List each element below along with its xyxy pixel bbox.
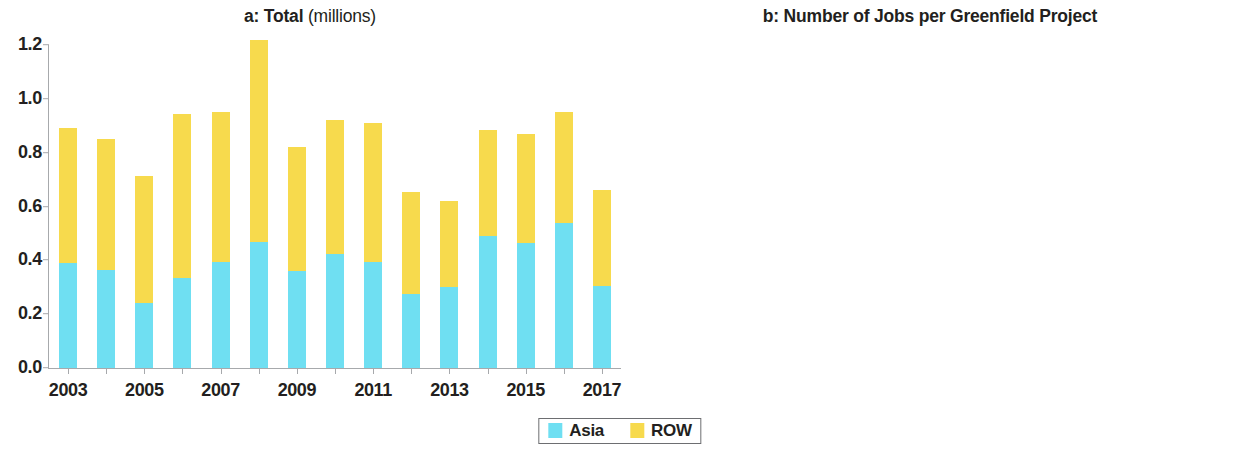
- stacked-bar: [517, 45, 535, 368]
- y-axis-tick-label: 1.2: [18, 34, 42, 55]
- y-axis-tick-label: 0.4: [18, 249, 42, 270]
- y-axis-tick-mark: [43, 367, 49, 368]
- stacked-bar: [97, 45, 115, 368]
- y-axis-tick-label: 0.8: [18, 142, 42, 163]
- bar-segment-asia: [59, 263, 77, 368]
- bar-segment-asia: [173, 278, 191, 368]
- y-axis-tick-label: 1.0: [18, 88, 42, 109]
- legend-label-row: ROW: [651, 422, 692, 439]
- stacked-bar: [555, 45, 573, 368]
- panel-a-title-light: (millions): [308, 6, 376, 26]
- bar-segment-row: [135, 176, 153, 304]
- x-axis-tick-mark: [68, 368, 69, 374]
- bar-segment-asia: [479, 236, 497, 368]
- x-axis-tick-mark: [488, 368, 489, 374]
- bar-segment-asia: [517, 243, 535, 368]
- stacked-bar: [402, 45, 420, 368]
- bar-segment-asia: [212, 262, 230, 368]
- stacked-bar: [135, 45, 153, 368]
- bar-segment-asia: [593, 286, 611, 368]
- bar-segment-row: [402, 192, 420, 294]
- x-axis-tick-mark: [602, 368, 603, 374]
- y-axis-tick-label: 0.0: [18, 357, 42, 378]
- bar-segment-row: [440, 201, 458, 287]
- stacked-bar: [326, 45, 344, 368]
- bar-segment-row: [59, 128, 77, 263]
- x-axis-tick-label: 2011: [354, 380, 391, 401]
- y-axis-tick-label: 0.6: [18, 196, 42, 217]
- y-axis-tick-mark: [43, 206, 49, 207]
- bar-segment-asia: [135, 303, 153, 368]
- bar-segment-row: [593, 190, 611, 286]
- panel-b-title: b: Number of Jobs per Greenfield Project: [620, 6, 1240, 27]
- stacked-bar: [440, 45, 458, 368]
- legend-item-asia: Asia: [548, 422, 604, 439]
- y-axis-tick-mark: [43, 44, 49, 45]
- x-axis-tick-label: 2005: [125, 380, 163, 401]
- x-axis-tick-mark: [144, 368, 145, 374]
- chart-legend: AsiaROW: [538, 418, 701, 444]
- stacked-bar: [212, 45, 230, 368]
- legend-swatch-asia: [548, 423, 562, 438]
- chart-panel-b: b: Number of Jobs per Greenfield Project…: [620, 0, 1240, 410]
- x-axis-tick-mark: [259, 368, 260, 374]
- bar-segment-row: [364, 123, 382, 262]
- x-axis-tick-label: 2009: [278, 380, 316, 401]
- stacked-bar: [288, 45, 306, 368]
- legend-item-row: ROW: [630, 422, 692, 439]
- panel-b-title-bold: b: Number of Jobs per Greenfield Project: [763, 6, 1097, 26]
- bar-segment-row: [288, 147, 306, 271]
- bar-segment-row: [517, 134, 535, 243]
- figure: a: Total (millions) 0.00.20.40.60.81.01.…: [0, 0, 1240, 449]
- bar-segment-row: [555, 112, 573, 222]
- bar-segment-asia: [250, 242, 268, 369]
- bar-segment-row: [479, 130, 497, 236]
- x-axis-tick-label: 2015: [506, 380, 544, 401]
- stacked-bar: [364, 45, 382, 368]
- bar-segment-asia: [440, 287, 458, 368]
- x-axis-tick-mark: [526, 368, 527, 374]
- stacked-bar: [173, 45, 191, 368]
- x-axis-tick-mark: [297, 368, 298, 374]
- panel-a-title-bold: a: Total: [244, 6, 303, 26]
- x-axis-tick-label: 2017: [583, 380, 621, 401]
- y-axis-tick-mark: [43, 152, 49, 153]
- legend-label-asia: Asia: [569, 422, 604, 439]
- stacked-bar: [59, 45, 77, 368]
- stacked-bar: [250, 45, 268, 368]
- bar-segment-row: [173, 114, 191, 278]
- bar-segment-row: [326, 120, 344, 253]
- bar-segment-asia: [97, 270, 115, 368]
- bar-segment-asia: [364, 262, 382, 368]
- panel-a-plot-area: 0.00.20.40.60.81.01.22003200520072009201…: [48, 45, 621, 369]
- x-axis-tick-mark: [373, 368, 374, 374]
- stacked-bar: [593, 45, 611, 368]
- panel-a-title: a: Total (millions): [0, 6, 620, 27]
- bar-segment-asia: [402, 294, 420, 368]
- x-axis-tick-mark: [221, 368, 222, 374]
- x-axis-tick-mark: [411, 368, 412, 374]
- bar-segment-row: [250, 40, 268, 242]
- bar-segment-row: [212, 112, 230, 261]
- bar-segment-row: [97, 139, 115, 270]
- bar-segment-asia: [288, 271, 306, 368]
- bar-segment-asia: [326, 254, 344, 368]
- x-axis-tick-mark: [449, 368, 450, 374]
- x-axis-tick-mark: [106, 368, 107, 374]
- y-axis-tick-mark: [43, 98, 49, 99]
- y-axis-tick-label: 0.2: [18, 303, 42, 324]
- y-axis-tick-mark: [43, 260, 49, 261]
- x-axis-tick-label: 2013: [430, 380, 468, 401]
- legend-swatch-row: [630, 423, 644, 438]
- stacked-bar: [479, 45, 497, 368]
- x-axis-tick-mark: [335, 368, 336, 374]
- x-axis-tick-mark: [564, 368, 565, 374]
- x-axis-tick-label: 2003: [49, 380, 87, 401]
- x-axis-tick-mark: [182, 368, 183, 374]
- bar-segment-asia: [555, 223, 573, 368]
- x-axis-tick-label: 2007: [201, 380, 239, 401]
- chart-panel-a: a: Total (millions) 0.00.20.40.60.81.01.…: [0, 0, 620, 410]
- y-axis-tick-mark: [43, 313, 49, 314]
